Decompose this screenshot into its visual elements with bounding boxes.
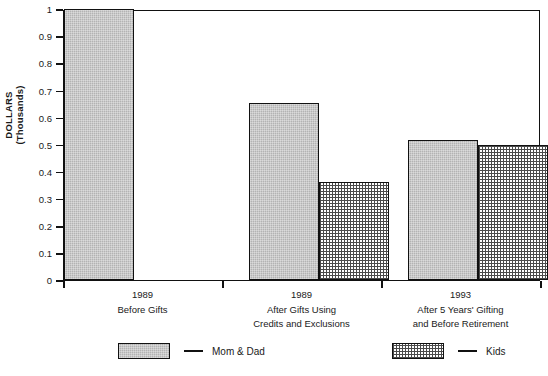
legend-dash-icon [458,350,477,352]
legend-entry-kids: Kids [392,340,505,362]
y-axis-tick-label: 0 [47,276,56,286]
y-axis-tick-label: 1 [47,5,56,15]
y-axis: 00.10.20.30.40.50.60.70.80.91 [0,0,63,291]
y-axis-tick-label: 0.6 [39,114,56,124]
bar-mom-dad-group-2 [249,103,319,281]
y-axis-tick-mark [56,91,63,93]
legend-label: Mom & Dad [212,346,265,357]
x-axis-tick-mark [381,281,383,288]
chart-legend: Mom & DadKids [0,340,548,370]
legend-entry-mom-dad: Mom & Dad [118,340,265,362]
legend-swatch [118,343,170,359]
bar-kids-group-3 [478,145,548,281]
y-axis-tick-mark [56,9,63,11]
y-axis-tick-mark [56,118,63,120]
plot-area [63,10,540,281]
y-axis-tick-label: 0.5 [39,141,56,151]
bar-mom-dad-group-3 [408,140,478,280]
x-axis-group-year: 1993 [356,288,548,302]
x-axis-group-label-3: 1993After 5 Years' Giftingand Before Ret… [356,288,548,331]
y-axis-tick-mark [56,226,63,228]
y-axis-tick-label: 0.1 [39,249,56,259]
y-axis-tick-label: 0.2 [39,222,56,232]
legend-swatch [392,343,444,359]
y-axis-tick-label: 0.9 [39,32,56,42]
y-axis-tick-mark [56,253,63,255]
y-axis-tick-mark [56,63,63,65]
y-axis-tick-label: 0.3 [39,195,56,205]
y-axis-tick-label: 0.7 [39,87,56,97]
x-axis-tick-mark [540,281,542,288]
x-axis-tick-mark [63,281,65,288]
x-axis-tick-mark [222,281,224,288]
bar-mom-dad-group-1 [64,9,134,280]
x-axis-group-description: and Before Retirement [356,317,548,331]
y-axis-tick-mark [56,145,63,147]
y-axis-tick-mark [56,199,63,201]
y-axis-tick-mark [56,172,63,174]
legend-dash-icon [184,350,203,352]
y-axis-tick-mark [56,280,63,282]
bar-kids-group-2 [319,182,389,280]
x-axis-group-description: After 5 Years' Gifting [356,303,548,317]
y-axis-tick-label: 0.8 [39,59,56,69]
y-axis-tick-label: 0.4 [39,168,56,178]
y-axis-tick-mark [56,36,63,38]
legend-label: Kids [486,346,505,357]
